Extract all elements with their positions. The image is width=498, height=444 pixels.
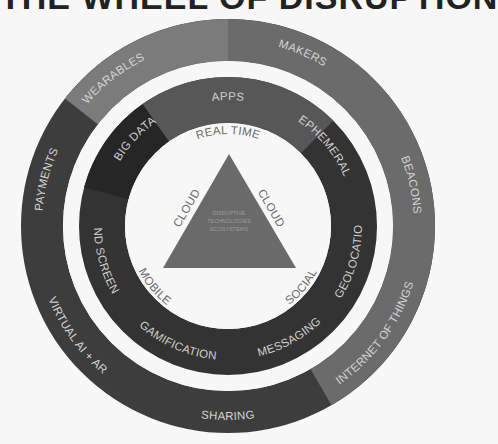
outer-label-sharing: SHARING [201,408,256,422]
triangle-center-line-2: TECHNOLOGIES [207,218,251,224]
triangle-center-line-1: DISRUPTIVE [212,210,245,216]
triangle-center-line-3: ECOSYSTEMS [210,226,249,232]
